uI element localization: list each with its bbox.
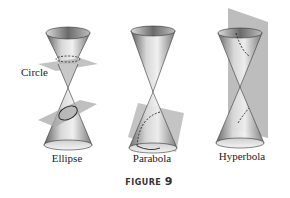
circle-label: Circle — [21, 66, 48, 78]
hyperbola-label: Hyperbola — [219, 150, 265, 162]
hyperbola-panel — [216, 8, 268, 148]
figure-caption-number: 9 — [165, 175, 173, 188]
ellipse-panel — [38, 27, 98, 150]
conic-sections-figure — [0, 0, 290, 198]
figure-caption-word: FIGURE — [125, 178, 161, 187]
ellipse-label: Ellipse — [52, 152, 83, 164]
parabola-panel — [128, 26, 184, 153]
upper-nappe — [131, 31, 175, 92]
parabola-label: Parabola — [133, 152, 171, 164]
upper-rim — [46, 27, 90, 39]
figure-caption: FIGURE 9 — [125, 175, 173, 188]
